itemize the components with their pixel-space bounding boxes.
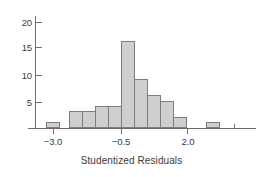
y-tick-mark-10 — [36, 75, 42, 76]
x-tick-mark-neg05 — [121, 129, 122, 134]
histogram-bar — [69, 111, 83, 128]
x-tick-label-2: 2.0 — [168, 136, 208, 147]
plot-area: 20 15 10 5 −3.0 −0.5 2.0 Studentized Res… — [0, 0, 263, 177]
histogram-bar — [46, 122, 60, 128]
x-tick-label-neg05: −0.5 — [101, 136, 141, 147]
x-tick-mark-neg3 — [53, 129, 54, 134]
y-tick-label-5: 5 — [8, 97, 32, 108]
x-axis-title: Studentized Residuals — [0, 155, 263, 166]
histogram-bar — [121, 41, 135, 128]
x-tick-mark-right — [234, 124, 235, 129]
y-tick-label-15: 15 — [8, 42, 32, 53]
y-tick-mark-15 — [36, 47, 42, 48]
histogram-bar — [108, 106, 122, 128]
histogram-bar — [206, 122, 220, 128]
histogram-bar — [147, 95, 161, 128]
x-axis-line — [28, 128, 256, 129]
x-tick-mark-2 — [187, 129, 188, 134]
histogram-bar — [134, 79, 148, 128]
y-tick-mark-5 — [36, 102, 42, 103]
histogram-bar — [173, 117, 187, 128]
histogram-bar — [160, 101, 174, 128]
histogram-bar — [95, 106, 109, 128]
y-tick-mark-20 — [36, 22, 42, 23]
histogram-bar — [82, 111, 96, 128]
y-axis-line — [35, 16, 36, 128]
histogram-chart: 20 15 10 5 −3.0 −0.5 2.0 Studentized Res… — [0, 0, 263, 177]
y-tick-label-20: 20 — [8, 17, 32, 28]
x-tick-label-neg3: −3.0 — [33, 136, 73, 147]
y-tick-label-10: 10 — [8, 70, 32, 81]
